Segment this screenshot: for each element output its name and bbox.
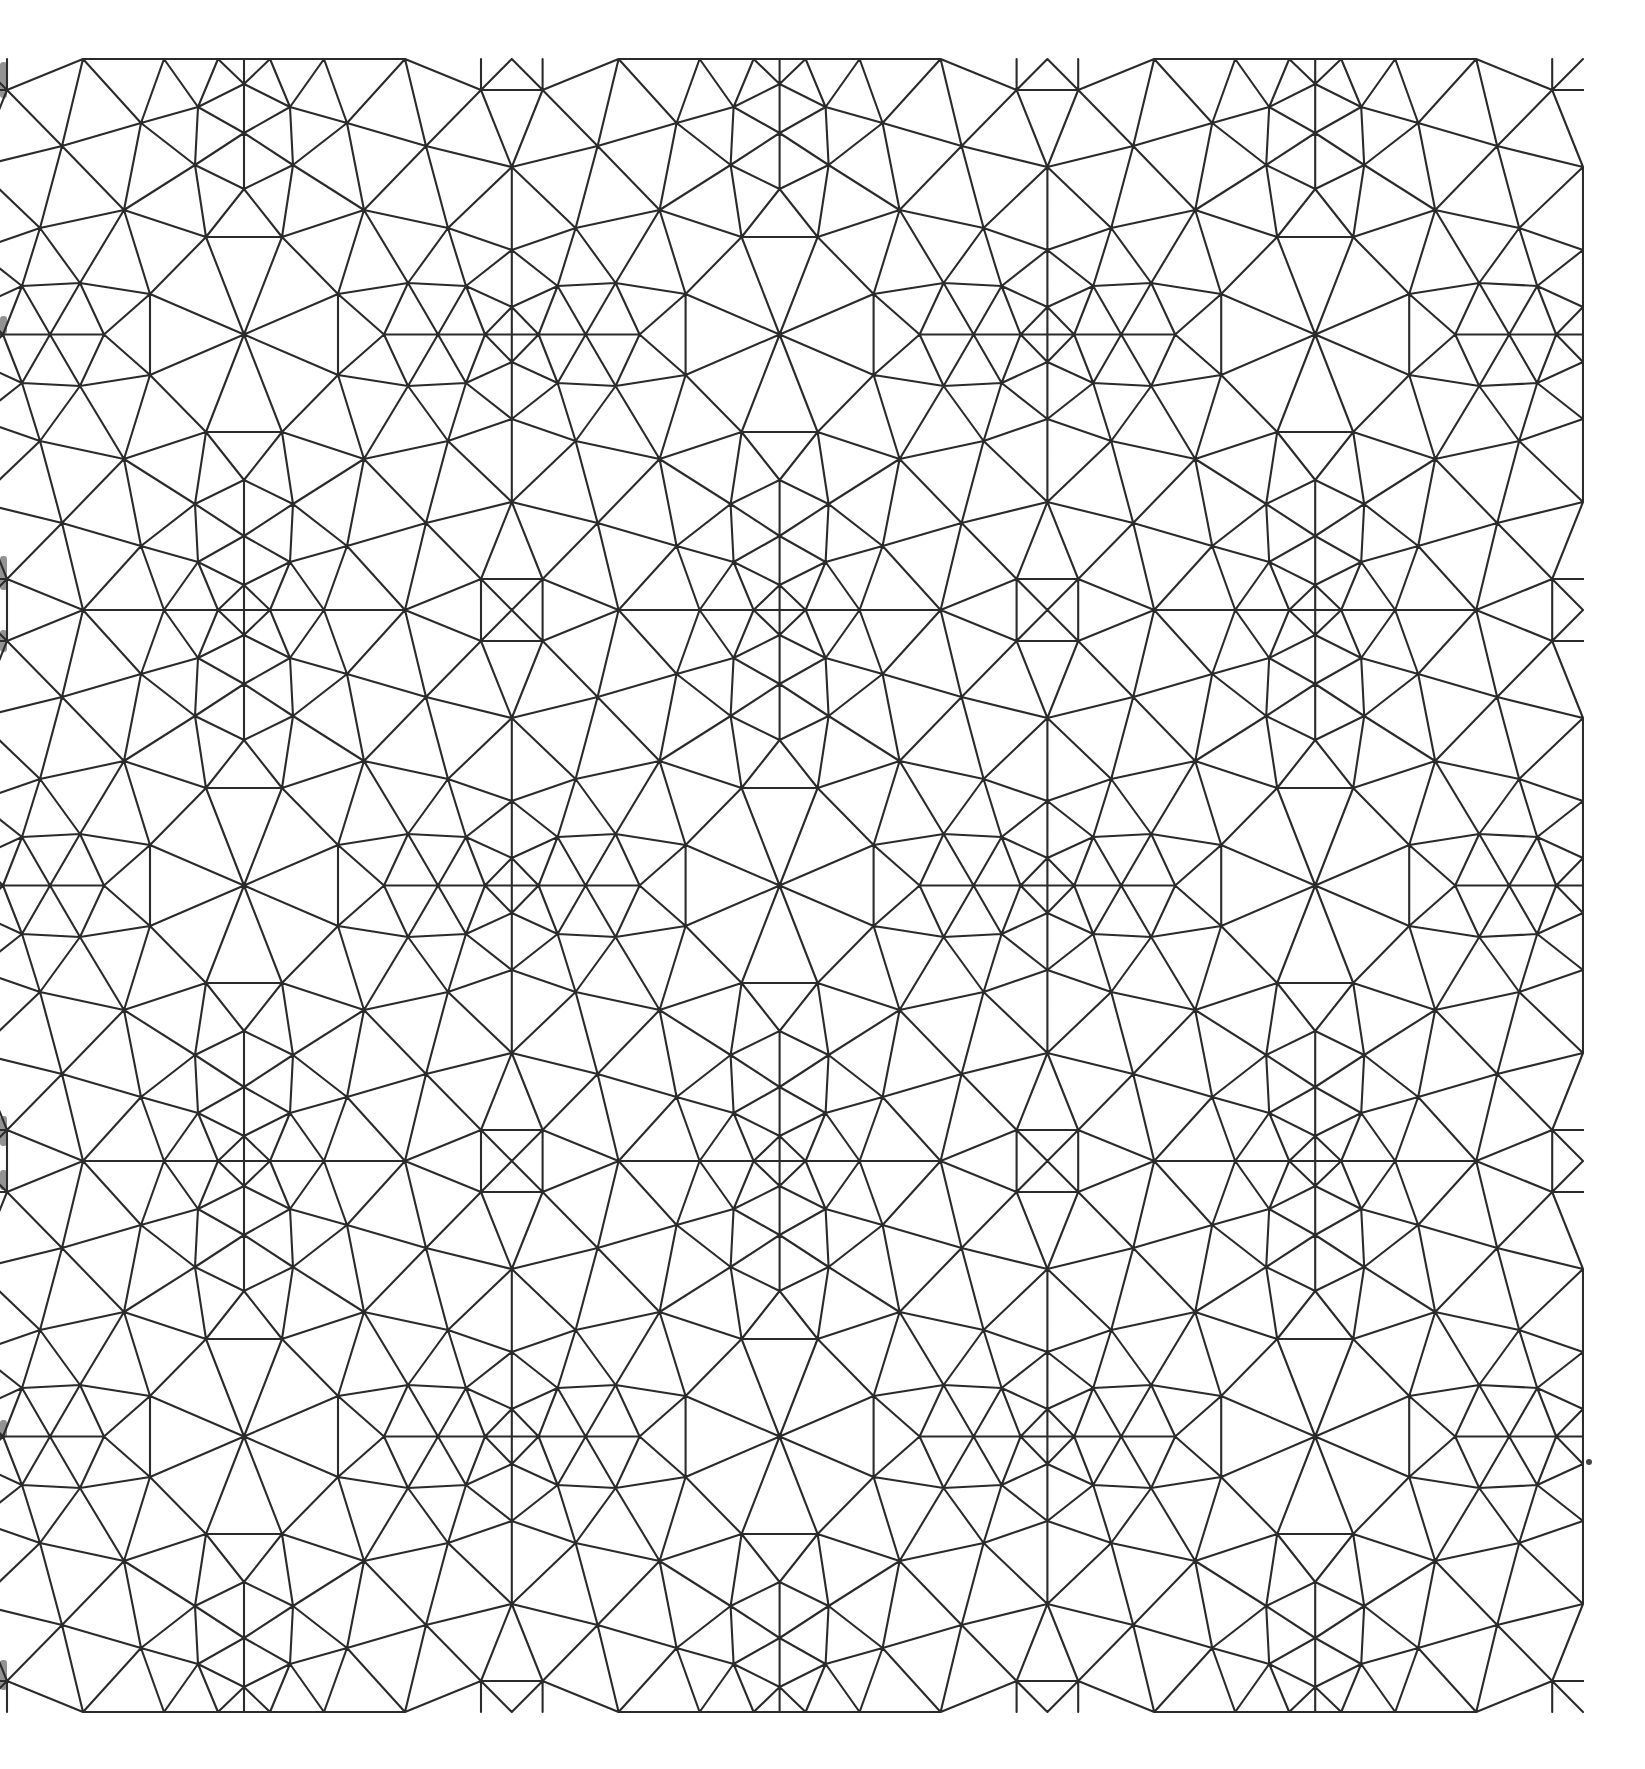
scan-speck — [1586, 1459, 1592, 1465]
speck-mark — [1586, 1459, 1592, 1465]
mesh-diagram — [0, 0, 1645, 1769]
